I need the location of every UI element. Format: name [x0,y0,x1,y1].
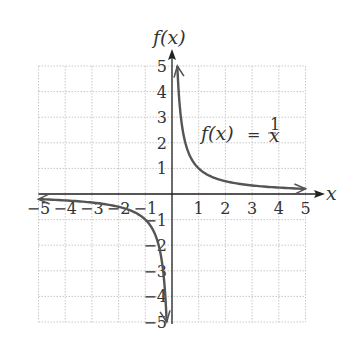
y-tick-label: 4 [157,83,167,102]
axes [39,49,326,324]
x-tick-label: 3 [247,199,257,218]
x-tick-label: 4 [274,199,284,218]
y-axis-label: f(x) [151,26,186,48]
curve-positive-branch [177,66,305,189]
function-label: f(x) = 1 x [199,115,280,146]
svg-text:x: x [269,124,280,146]
x-tick-label: 5 [300,199,310,218]
y-tick-label: −2 [143,236,167,255]
x-tick-label: 2 [220,199,230,218]
reciprocal-function-graph: −5−4−3−2−11234554321−1−2−3−4−5 f(x) x f(… [0,0,353,346]
y-tick-label: −4 [143,287,167,306]
y-tick-label: 5 [157,57,167,76]
x-tick-label: 1 [194,199,204,218]
x-axis-label: x [326,182,337,204]
y-tick-label: 2 [157,134,167,153]
y-tick-label: 3 [157,108,167,127]
svg-text:=: = [247,125,260,144]
y-tick-label: 1 [157,159,167,178]
svg-text:f(x): f(x) [199,122,234,144]
